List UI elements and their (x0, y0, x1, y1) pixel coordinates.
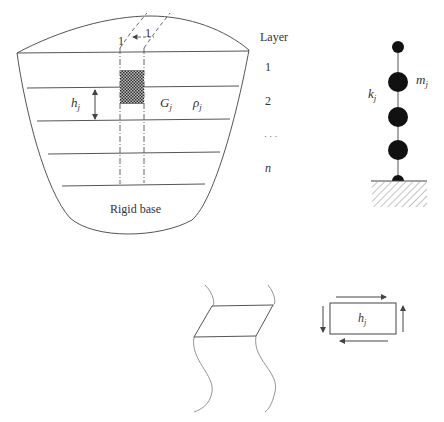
fixed-ground-hatch (372, 182, 427, 207)
lumped-mass-model (371, 41, 427, 207)
layer-legend-title: Layer (260, 30, 288, 44)
mass-icon (388, 72, 408, 92)
layer-boundary-4 (48, 152, 220, 154)
base-support-icon (392, 175, 404, 181)
layer-1-label: 1 (265, 60, 271, 74)
layer-legend: Layer 1 2 · · · n (260, 30, 288, 175)
layer-boundary-1 (17, 51, 249, 53)
layer-boundary-3 (37, 119, 230, 121)
mass-top-icon (392, 41, 404, 53)
column-depth-label: 1 (145, 26, 151, 40)
layer-boundary-5 (62, 184, 205, 186)
sheared-soil-element (194, 285, 276, 412)
mass-label: mj (416, 72, 428, 89)
layer-thickness-label: hj (71, 95, 81, 112)
layer-2-label: 2 (265, 94, 271, 108)
soil-layer-diagram: 1 1 hj Gj ρj Rigid base Layer 1 2 · · · … (0, 0, 444, 422)
element-height-label: hj (358, 311, 367, 327)
soil-element (120, 70, 144, 104)
density-label: ρj (192, 95, 202, 112)
mass-icon (388, 107, 408, 127)
ground-surface (17, 16, 249, 53)
rigid-base-label: Rigid base (110, 202, 161, 216)
column-width-label: 1 (118, 34, 124, 48)
mass-icon (388, 140, 408, 160)
layer-n-label: n (265, 161, 271, 175)
shear-modulus-label: Gj (160, 95, 172, 112)
stiffness-label: kj (368, 86, 377, 103)
layer-ellipsis: · · · (264, 131, 278, 141)
